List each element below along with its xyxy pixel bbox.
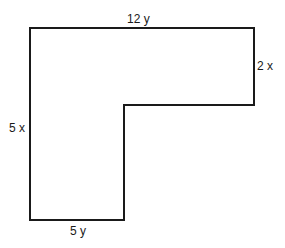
right-side-label: 2 x [257, 60, 273, 72]
left-side-label: 5 x [9, 122, 25, 134]
l-shape-figure [0, 0, 285, 248]
bottom-side-label: 5 y [70, 225, 86, 237]
top-side-label: 12 y [127, 13, 150, 25]
l-shape-outline [30, 28, 254, 220]
l-shape-diagram: 12 y 2 x 5 x 5 y [0, 0, 285, 248]
